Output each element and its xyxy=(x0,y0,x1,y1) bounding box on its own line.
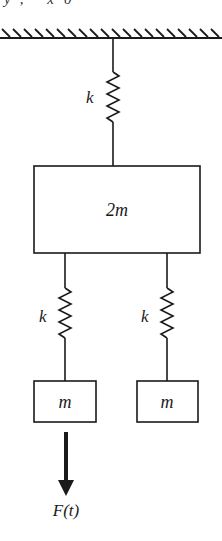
force-label: F(t) xyxy=(52,501,80,520)
mass-spring-diagram: k 2m k k m m F(t) xyxy=(0,0,222,541)
left-spring xyxy=(59,253,71,381)
top-spring-label: k xyxy=(86,88,94,107)
left-spring-label: k xyxy=(39,307,47,326)
right-spring-label: k xyxy=(141,307,149,326)
right-mass-label: m xyxy=(161,392,174,412)
big-mass-label: 2m xyxy=(106,200,128,220)
force-arrow-icon xyxy=(58,432,74,496)
ground-support xyxy=(0,29,222,38)
left-mass-label: m xyxy=(59,392,72,412)
top-spring xyxy=(107,38,119,166)
right-spring xyxy=(161,253,173,381)
